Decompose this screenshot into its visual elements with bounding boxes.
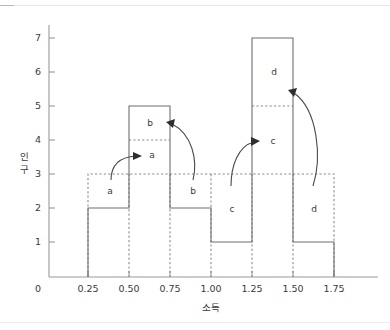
y-label-6: 6 xyxy=(35,66,41,77)
reference-level-lines xyxy=(129,106,293,140)
arrow-d xyxy=(288,88,317,186)
label-c-narrow: c xyxy=(271,136,276,146)
x-label-1p75: 1.75 xyxy=(323,283,344,294)
y-label-3: 3 xyxy=(35,168,41,179)
x-tick-labels: 0.25 0.50 0.75 1.00 1.25 1.50 1.75 xyxy=(77,283,344,294)
label-b-wide: b xyxy=(190,186,196,196)
x-label-1p50: 1.50 xyxy=(282,283,303,294)
annotation-arrows xyxy=(111,88,317,186)
label-c-wide: c xyxy=(230,204,235,214)
y-axis-title-char-2: 구 xyxy=(20,164,29,175)
arrow-b-path xyxy=(172,124,195,180)
y-tick-marks xyxy=(49,38,55,242)
x-label-0p75: 0.75 xyxy=(159,283,180,294)
label-a-wide: a xyxy=(107,186,113,196)
label-d-narrow: d xyxy=(271,67,277,77)
y-label-5: 5 xyxy=(35,100,41,111)
arrow-d-path xyxy=(294,93,317,186)
arrow-a-path xyxy=(111,156,136,180)
y-label-1: 1 xyxy=(35,236,41,247)
y-axis-title-char-1: 인 xyxy=(20,151,29,162)
label-b-narrow: b xyxy=(147,118,153,128)
y-label-2: 2 xyxy=(35,202,41,213)
x-axis-title: 소득 xyxy=(202,302,220,313)
y-label-7: 7 xyxy=(35,32,41,43)
narrow-bin-histogram xyxy=(88,38,334,277)
x-label-1p25: 1.25 xyxy=(241,283,262,294)
arrow-c-path xyxy=(231,142,254,186)
x-label-0p50: 0.50 xyxy=(118,283,139,294)
arrow-c-head xyxy=(251,137,260,146)
narrow-bin-outline xyxy=(88,38,334,277)
label-d-wide: d xyxy=(311,204,317,214)
x-label-0p25: 0.25 xyxy=(77,283,98,294)
axis-group: 7 6 5 4 3 2 1 0 0.25 0.50 0.75 1.00 1.25… xyxy=(20,25,379,313)
arrow-c xyxy=(231,137,260,186)
label-a-narrow: a xyxy=(149,150,155,160)
y-tick-labels: 7 6 5 4 3 2 1 0 xyxy=(35,32,41,294)
y-label-0: 0 xyxy=(35,283,41,294)
y-label-4: 4 xyxy=(35,134,41,145)
arrow-a-head xyxy=(133,152,142,160)
arrow-a xyxy=(111,152,142,180)
histogram-figure: 7 6 5 4 3 2 1 0 0.25 0.50 0.75 1.00 1.25… xyxy=(0,0,390,330)
x-label-1p00: 1.00 xyxy=(200,283,221,294)
